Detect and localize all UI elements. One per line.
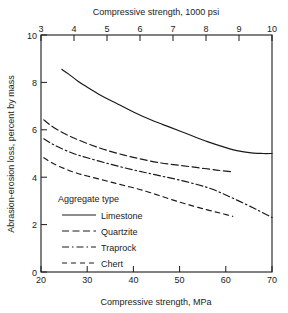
bottom-tick-label: 60 [221,275,231,285]
top-axis-title: Compressive strength, 1000 psi [93,7,220,17]
bottom-axis-title: Compressive strength, MPa [100,297,211,307]
y-axis-title: Abrasion-erosion loss, percent by mass [6,75,16,233]
top-tick-label: 9 [236,24,241,34]
plot-frame [41,35,272,272]
y-tick-label: 2 [32,220,37,230]
top-tick-label: 6 [137,24,142,34]
top-tick-label: 10 [267,24,277,34]
legend-label-limestone: Limestone [101,211,143,221]
legend-entries: LimestoneQuartziteTraprockChert [62,211,143,269]
abrasion-erosion-chart-figure: Compressive strength, 1000 psi Compressi… [0,0,288,313]
bottom-tick-label: 30 [82,275,92,285]
legend-label-quartzite: Quartzite [101,227,138,237]
chart-canvas: Compressive strength, 1000 psi Compressi… [0,0,288,313]
top-tick-label: 8 [203,24,208,34]
top-tick-label: 7 [170,24,175,34]
curve-chert [44,158,233,217]
y-tick-label: 4 [32,173,37,183]
chart-legend: Aggregate type LimestoneQuartziteTraproc… [58,194,143,269]
bottom-tick-label: 40 [128,275,138,285]
legend-label-chert: Chert [101,259,124,269]
top-tick-label: 3 [38,24,43,34]
curve-quartzite [44,120,233,172]
top-axis-ticks: 345678910 [38,24,277,41]
legend-title: Aggregate type [58,194,119,204]
legend-label-traprock: Traprock [101,243,137,253]
curve-limestone [62,69,272,153]
top-tick-label: 4 [71,24,76,34]
y-tick-label: 8 [32,78,37,88]
bottom-tick-label: 20 [36,275,46,285]
bottom-tick-label: 70 [267,275,277,285]
y-tick-label: 0 [32,268,37,278]
bottom-axis-ticks: 203040506070 [36,266,277,285]
bottom-tick-label: 50 [175,275,185,285]
top-tick-label: 5 [104,24,109,34]
y-tick-label: 10 [27,31,37,41]
y-tick-label: 6 [32,125,37,135]
y-axis-ticks: 0246810 [27,31,47,278]
